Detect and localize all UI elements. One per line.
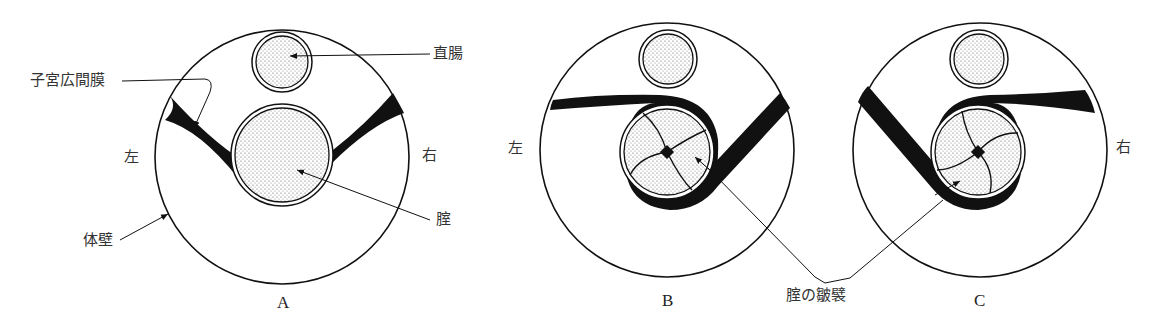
label-left-a: 左 — [124, 150, 139, 165]
label-vagina: 腟 — [436, 212, 451, 227]
label-broad-ligament: 子宮広間膜 — [30, 73, 105, 88]
body-wall-leader — [120, 214, 168, 240]
diagram-canvas — [0, 0, 1160, 330]
panel-c — [853, 23, 1107, 277]
vaginal-folds-leaders — [695, 157, 960, 283]
label-right-c: 右 — [1116, 140, 1131, 155]
panel-label-a: A — [277, 294, 289, 311]
vagina-leader — [297, 170, 430, 220]
label-rectum: 直腸 — [433, 46, 463, 61]
panel-b — [540, 23, 794, 277]
label-right-a: 右 — [422, 148, 437, 163]
label-vaginal-folds: 腟の皺襞 — [786, 288, 846, 303]
label-body-wall: 体壁 — [83, 233, 113, 248]
broad-ligament-right-a — [330, 93, 404, 165]
panel-a — [120, 30, 430, 284]
broad-ligament-left-a — [165, 96, 242, 178]
panel-label-c: C — [974, 292, 985, 309]
panel-label-b: B — [662, 292, 673, 309]
label-left-b: 左 — [508, 141, 523, 156]
